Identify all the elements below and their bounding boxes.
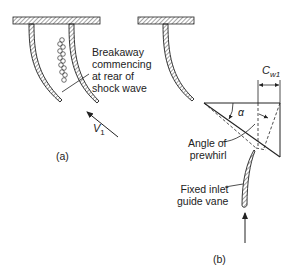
breakaway-turbulence [58, 38, 68, 83]
cw1-subscript: w1 [270, 70, 280, 79]
annotation-line-1: Breakaway [92, 46, 152, 58]
guide-vane-line-2: guide vane [177, 195, 228, 207]
guide-vane-annotation: Fixed inlet guide vane [177, 183, 228, 207]
cw1-symbol: C [262, 64, 270, 76]
cw1-dimension [258, 80, 280, 103]
caption-a: (a) [56, 150, 69, 162]
v1-label: V1 [93, 122, 105, 139]
panel-a-hub [13, 17, 100, 24]
annotation-line-4: shock wave [92, 82, 152, 94]
v1-subscript: 1 [100, 128, 104, 137]
caption-b: (b) [213, 253, 226, 265]
panel-b-blade [163, 24, 194, 101]
prewhirl-line-1: Angle of [188, 137, 227, 149]
breakaway-annotation: Breakaway commencing at rear of shock wa… [92, 46, 152, 94]
cw1-label: Cw1 [262, 64, 280, 81]
guide-vane-line-1: Fixed inlet [177, 183, 228, 195]
prewhirl-line-2: prewhirl [188, 149, 227, 161]
panel-a-blade-left [29, 24, 62, 102]
panel-b-hub [138, 17, 194, 24]
alpha-label: α [238, 106, 244, 118]
annotation-line-3: at rear of [92, 70, 152, 82]
prewhirl-annotation: Angle of prewhirl [188, 137, 227, 161]
diagram-canvas [0, 0, 291, 273]
prewhirl-dimension-arrow [259, 114, 268, 118]
annotation-line-2: commencing [92, 58, 152, 70]
alpha-angle-arc [229, 103, 233, 119]
inlet-guide-vane [242, 150, 255, 207]
